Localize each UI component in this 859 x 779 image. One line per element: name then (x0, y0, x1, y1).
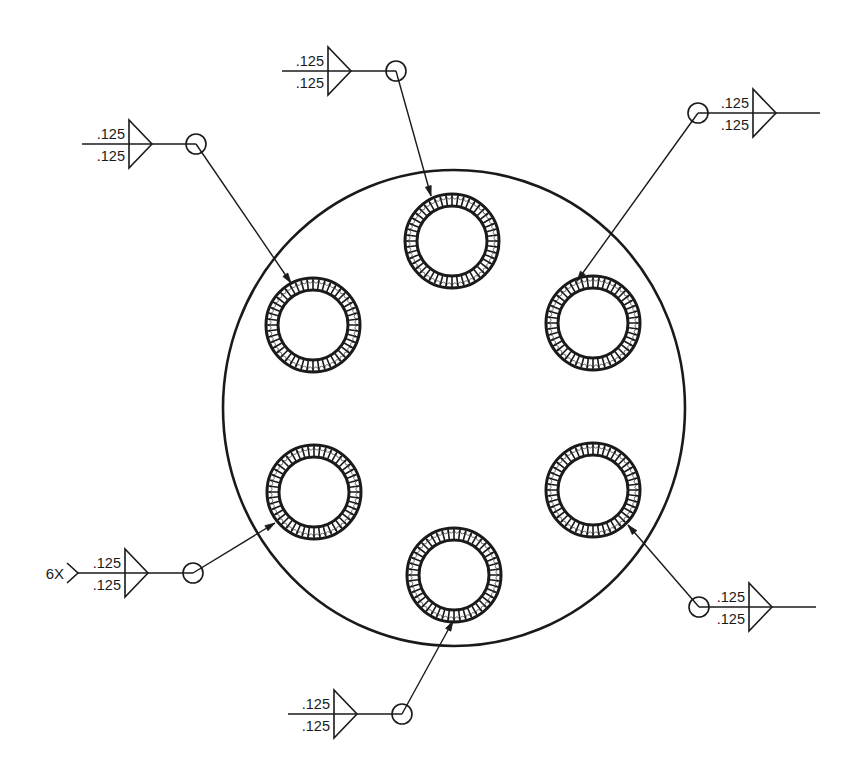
weld-ring-outer (407, 528, 501, 622)
other-side-weld-size: .125 (296, 75, 324, 91)
weld-symbol-lower-left: .125.1256X (46, 523, 275, 597)
hole-edge (278, 290, 348, 360)
hole-edge (417, 206, 487, 276)
weld-drawing: .125.125.125.125.125.125.125.1256X.125.1… (0, 0, 859, 779)
hole-edge (279, 457, 349, 527)
other-side-weld-size: .125 (717, 611, 745, 627)
arrowhead-icon (283, 273, 291, 283)
weld-bead-hatch (268, 446, 360, 538)
weld-ring-outer (266, 278, 360, 372)
arrow-side-weld-size: .125 (93, 555, 121, 571)
other-side-weld-size: .125 (97, 148, 125, 164)
plate-outline (223, 170, 685, 646)
weld-ring-top (405, 194, 499, 288)
other-side-weld-size: .125 (721, 117, 749, 133)
other-side-weld-size: .125 (93, 577, 121, 593)
weld-bead-ripple (548, 445, 638, 535)
weld-bead-ripple (409, 530, 499, 620)
weld-drawing-canvas: .125.125.125.125.125.125.125.1256X.125.1… (0, 0, 859, 779)
weld-symbol-bottom: .125.125 (288, 621, 453, 738)
arrow-side-weld-size: .125 (97, 126, 125, 142)
tail-icon (67, 563, 78, 583)
weld-bead-ripple (268, 280, 358, 370)
weld-holes (266, 194, 640, 622)
hole-edge (419, 540, 489, 610)
quantity-note: 6X (46, 565, 64, 582)
weld-symbol-lower-right: .125.125 (628, 525, 816, 631)
weld-bead-ripple (269, 447, 359, 537)
leader-line (402, 621, 453, 714)
arrowhead-icon (425, 186, 431, 196)
weld-bead-hatch (547, 444, 639, 536)
weld-ring-outer (546, 276, 640, 370)
leader-line (577, 113, 698, 281)
weld-bead-hatch (406, 195, 498, 287)
arrowhead-icon (265, 523, 275, 531)
leader-line (196, 144, 291, 283)
weld-ring-upper-right (546, 276, 640, 370)
weld-ring-lower-left (267, 445, 361, 539)
weld-bead-ripple (407, 196, 497, 286)
weld-ring-outer (405, 194, 499, 288)
circular-plate (223, 170, 685, 646)
weld-bead-ripple (548, 278, 638, 368)
weld-bead-hatch (267, 279, 359, 371)
hole-edge (558, 455, 628, 525)
arrow-side-weld-size: .125 (302, 696, 330, 712)
weld-bead-hatch (547, 277, 639, 369)
leader-line (193, 523, 275, 573)
weld-ring-bottom (407, 528, 501, 622)
hole-edge (558, 288, 628, 358)
weld-callouts: .125.125.125.125.125.125.125.1256X.125.1… (46, 47, 820, 738)
weld-ring-upper-left (266, 278, 360, 372)
leader-line (628, 525, 699, 607)
arrow-side-weld-size: .125 (721, 95, 749, 111)
weld-symbol-upper-right: .125.125 (577, 89, 820, 281)
weld-symbol-upper-left: .125.125 (82, 120, 291, 283)
weld-ring-outer (546, 443, 640, 537)
arrow-side-weld-size: .125 (717, 589, 745, 605)
weld-bead-hatch (408, 529, 500, 621)
weld-ring-outer (267, 445, 361, 539)
weld-ring-lower-right (546, 443, 640, 537)
other-side-weld-size: .125 (302, 718, 330, 734)
arrow-side-weld-size: .125 (296, 53, 324, 69)
